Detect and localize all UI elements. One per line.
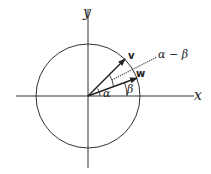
- alpha-label: α: [103, 88, 110, 99]
- x-axis-label: x: [194, 88, 202, 102]
- diagram-canvas: y x v w α β α − β: [0, 0, 211, 174]
- y-axis-label: y: [83, 5, 91, 19]
- beta-label: β: [127, 84, 133, 95]
- vector-w-label: w: [136, 69, 145, 79]
- alpha-minus-beta-arc: [110, 75, 114, 87]
- alpha-minus-beta-label: α − β: [158, 49, 188, 60]
- vector-v-label: v: [128, 51, 135, 61]
